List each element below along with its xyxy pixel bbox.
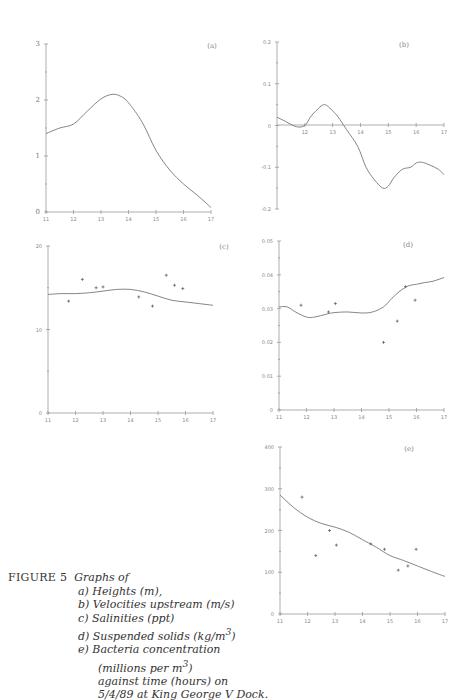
- y-tick-label: 0: [270, 407, 273, 413]
- y-tick-label: 0.01: [262, 373, 273, 379]
- caption-item-d: d) Suspended solids (kg/m3): [8, 625, 268, 643]
- x-tick-label: 14: [125, 216, 131, 222]
- x-tick-label: 11: [45, 417, 51, 423]
- panel-label: (a): [207, 42, 217, 50]
- x-tick-label: 16: [180, 216, 186, 222]
- y-tick-label: -0.1: [261, 164, 271, 170]
- x-tick-label: 16: [414, 618, 420, 624]
- panel-label: (d): [403, 241, 413, 249]
- x-tick-label: 15: [153, 216, 159, 222]
- caption-item-b: b) Velocities upstream (m/s): [8, 598, 268, 612]
- caption-item-c: c) Salinities (ppt): [8, 612, 268, 626]
- model-curve: [48, 289, 213, 305]
- x-tick-label: 15: [385, 129, 391, 135]
- figure-caption: FIGURE 5 Graphs of a) Heights (m), b) Ve…: [8, 571, 268, 700]
- y-tick-label: 0: [271, 611, 274, 617]
- x-tick-label: 14: [127, 417, 133, 423]
- caption-item-e-cont3: 5/4/89 at King George V Dock.: [8, 688, 268, 700]
- panel-a: 012311121314151617(a): [36, 40, 218, 222]
- y-tick-label: 0: [36, 208, 40, 216]
- x-tick-label: 16: [182, 417, 188, 423]
- x-tick-label: 13: [332, 618, 338, 624]
- caption-intro: Graphs of: [74, 571, 129, 584]
- x-tick-label: 17: [441, 414, 447, 420]
- panel-label: (e): [404, 445, 414, 453]
- caption-item-e: e) Bacteria concentration: [8, 643, 268, 657]
- y-tick-label: 2: [36, 96, 40, 104]
- y-tick-label: 3: [36, 40, 40, 48]
- panel-label: (c): [219, 243, 229, 251]
- panel-c: 0102011121314151617(c): [36, 243, 229, 423]
- x-tick-label: 16: [413, 414, 419, 420]
- y-tick-label: 20: [36, 243, 42, 249]
- x-tick-label: 11: [276, 414, 282, 420]
- caption-item-e-cont1: (millions per m3): [8, 657, 268, 675]
- x-tick-label: 15: [387, 618, 393, 624]
- y-tick-label: 0: [268, 123, 271, 129]
- y-tick-label: 400: [264, 444, 274, 450]
- panel-d: 00.010.020.030.040.0511121314151617(d): [262, 238, 447, 420]
- model-curve: [46, 94, 211, 207]
- panel-b: 0.20.10-0.1-0.2121314151617(b): [261, 39, 447, 212]
- model-curve: [279, 278, 444, 318]
- caption-item-e-cont2: against time (hours) on: [8, 675, 268, 689]
- x-tick-label: 12: [302, 129, 308, 135]
- model-curve: [277, 105, 444, 189]
- y-tick-label: 0.1: [263, 81, 271, 87]
- x-tick-label: 12: [304, 618, 310, 624]
- y-tick-label: 300: [264, 486, 274, 492]
- x-tick-label: 17: [442, 618, 448, 624]
- x-tick-label: 13: [98, 216, 104, 222]
- x-tick-label: 17: [441, 129, 447, 135]
- model-curve: [280, 495, 445, 576]
- x-tick-label: 17: [208, 216, 214, 222]
- x-tick-label: 14: [358, 414, 364, 420]
- y-tick-label: 0.03: [262, 306, 273, 312]
- y-tick-label: 200: [264, 528, 274, 534]
- x-tick-label: 15: [386, 414, 392, 420]
- x-tick-label: 12: [303, 414, 309, 420]
- x-tick-label: 13: [329, 129, 335, 135]
- x-tick-label: 15: [155, 417, 161, 423]
- x-tick-label: 14: [359, 618, 365, 624]
- panel-label: (b): [399, 41, 409, 49]
- x-tick-label: 13: [331, 414, 337, 420]
- x-tick-label: 12: [70, 216, 76, 222]
- x-tick-label: 12: [72, 417, 78, 423]
- y-tick-label: 0.02: [262, 339, 273, 345]
- y-tick-label: 0.04: [262, 272, 273, 278]
- x-tick-label: 14: [357, 129, 363, 135]
- panel-e: 010020030040011121314151617(e): [264, 444, 448, 624]
- caption-item-a: a) Heights (m),: [8, 585, 268, 599]
- x-tick-label: 17: [210, 417, 216, 423]
- y-tick-label: 10: [36, 327, 42, 333]
- x-tick-label: 13: [100, 417, 106, 423]
- y-tick-label: 0.2: [263, 39, 271, 45]
- y-tick-label: 1: [36, 152, 40, 160]
- x-tick-label: 11: [43, 216, 49, 222]
- x-tick-label: 11: [277, 618, 283, 624]
- y-tick-label: -0.2: [261, 206, 271, 212]
- y-tick-label: 0.05: [262, 238, 273, 244]
- y-tick-label: 0: [39, 410, 42, 416]
- caption-label: FIGURE 5: [8, 571, 67, 584]
- x-tick-label: 16: [413, 129, 419, 135]
